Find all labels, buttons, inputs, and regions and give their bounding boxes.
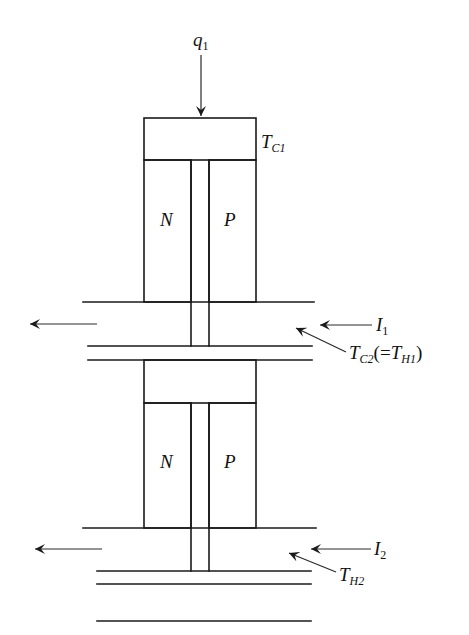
stage1-center-stem bbox=[191, 160, 209, 346]
label-main: T bbox=[339, 564, 350, 585]
label-main2: T bbox=[391, 342, 402, 363]
current-2-label: I2 bbox=[374, 539, 386, 561]
hot-temp-pointer bbox=[289, 553, 336, 572]
label-sub: C2 bbox=[360, 352, 374, 366]
stage2-n-label: N bbox=[160, 452, 173, 471]
label-sub2: H1 bbox=[401, 352, 416, 366]
stage1-p-label: P bbox=[224, 210, 236, 229]
label-main: q bbox=[193, 29, 203, 50]
interface-temp-pointer bbox=[296, 328, 346, 352]
stage1-n-label: N bbox=[160, 210, 173, 229]
stage1-n-leg bbox=[144, 160, 191, 302]
label-paren-open: (= bbox=[374, 342, 391, 363]
label-main: T bbox=[349, 342, 360, 363]
interface-temp-label: TC2(=TH1) bbox=[349, 343, 422, 365]
stage2-center-stem bbox=[191, 403, 209, 571]
label-sub: 2 bbox=[380, 548, 386, 562]
stage1-cold-plate bbox=[144, 118, 256, 160]
heat-input-label: q1 bbox=[193, 30, 209, 52]
stage2-p-label: P bbox=[224, 452, 236, 471]
stage2-cold-plate bbox=[144, 360, 256, 403]
label-sub: H2 bbox=[350, 574, 365, 588]
cold-temp-stage1-label: TC1 bbox=[261, 132, 286, 154]
cascade-diagram bbox=[0, 0, 469, 635]
hot-temp-stage2-label: TH2 bbox=[339, 565, 364, 587]
label-main: T bbox=[261, 131, 272, 152]
label-sub: 1 bbox=[382, 324, 388, 338]
label-sub: C1 bbox=[272, 141, 286, 155]
label-paren-close: ) bbox=[416, 342, 422, 363]
current-1-label: I1 bbox=[376, 315, 388, 337]
stage1-p-leg bbox=[209, 160, 256, 302]
label-sub: 1 bbox=[203, 39, 209, 53]
